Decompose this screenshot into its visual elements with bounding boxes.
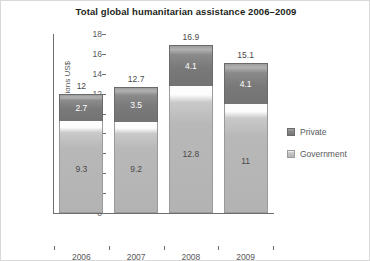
bar-column[interactable]: 9.32.712 [59,94,103,213]
x-tick-mark [273,246,274,250]
bar-segment-government[interactable]: 11 [224,104,268,213]
bar-segment-value: 2.7 [60,103,102,113]
legend-label: Private [300,127,326,137]
bar-segment-value: 9.3 [60,164,102,174]
bar-column[interactable]: 114.115.1 [224,63,268,213]
x-tick-mark [54,246,55,250]
bar-segment-private[interactable]: 3.5 [114,87,158,122]
bar-segment-value: 4.1 [225,79,267,89]
bar-total-label: 12 [59,81,103,91]
chart-title: Total global humanitarian assistance 200… [1,6,370,17]
legend-item[interactable]: Government [287,149,347,159]
bar-segment-private[interactable]: 4.1 [169,45,213,86]
x-tick-label: 2009(est) [211,252,281,261]
y-tick-mark [102,213,106,214]
bar-segment-private[interactable]: 2.7 [59,94,103,121]
bar-segment-government[interactable]: 12.8 [169,86,213,213]
bar-segment-private[interactable]: 4.1 [224,63,268,104]
y-tick-label: 18 [54,29,102,39]
bar-segment-value: 9.2 [115,164,157,174]
bar-column[interactable]: 9.23.512.7 [114,87,158,213]
chart-figure: Total global humanitarian assistance 200… [0,0,370,261]
y-tick-mark [102,74,106,75]
legend-item[interactable]: Private [287,127,347,137]
bar-segment-value: 12.8 [170,149,212,159]
bar-segment-value: 4.1 [170,61,212,71]
y-tick-label: 14 [54,69,102,79]
chart-legend: PrivateGovernment [287,127,347,171]
y-tick-mark [102,34,106,35]
bar-column[interactable]: 12.84.116.9 [169,45,213,213]
y-tick-label: 16 [54,49,102,59]
bar-segment-government[interactable]: 9.2 [114,122,158,213]
bar-total-label: 16.9 [169,32,213,42]
y-tick-mark [102,54,106,55]
legend-swatch-icon [287,128,295,136]
plot-area: Billions US$ 024681012141618 20062007200… [54,34,273,213]
bar-segment-government[interactable]: 9.3 [59,121,103,213]
legend-label: Government [300,149,347,159]
bar-segment-value: 11 [225,156,267,166]
x-tick-mark [164,246,165,250]
x-tick-mark [218,246,219,250]
x-tick-mark [109,246,110,250]
bar-segment-value: 3.5 [115,100,157,110]
bar-total-label: 12.7 [114,74,158,84]
legend-swatch-icon [287,150,295,158]
bar-total-label: 15.1 [224,50,268,60]
